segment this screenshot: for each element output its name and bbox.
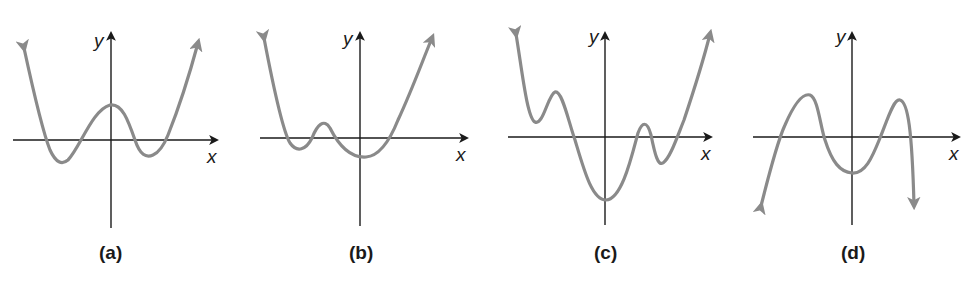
graph-c	[508, 33, 711, 225]
graph-a	[13, 33, 217, 228]
y-axis-label-c: y	[589, 26, 599, 48]
curve-d	[761, 95, 914, 206]
caption-d: (d)	[841, 242, 865, 264]
x-axis-label-b: x	[456, 144, 466, 166]
y-axis-label-a: y	[94, 30, 104, 52]
graph-b	[260, 33, 467, 226]
y-axis-label-d: y	[836, 26, 846, 48]
x-axis-label-c: x	[701, 143, 711, 165]
curve-c	[516, 34, 710, 200]
caption-a: (a)	[99, 242, 122, 264]
curve-b	[264, 38, 432, 157]
caption-c: (c)	[594, 242, 617, 264]
polynomial-graphs-figure	[0, 0, 970, 285]
x-axis-label-d: x	[949, 143, 959, 165]
caption-b: (b)	[349, 242, 373, 264]
x-axis-label-a: x	[207, 146, 217, 168]
y-axis-label-b: y	[343, 28, 353, 50]
graph-d	[753, 33, 959, 225]
